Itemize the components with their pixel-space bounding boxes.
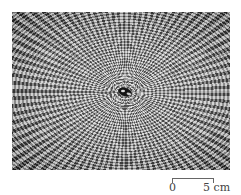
scale-start-label: 0 (169, 182, 176, 194)
cross-section-photo (12, 12, 230, 170)
radial-pattern-overlay (12, 12, 230, 170)
scale-end-label: 5 cm (203, 182, 230, 194)
